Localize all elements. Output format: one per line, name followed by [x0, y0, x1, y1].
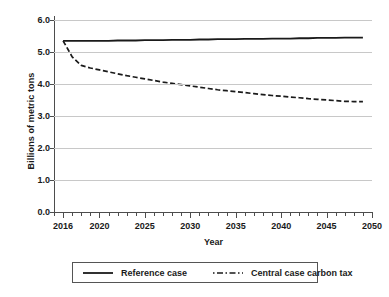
x-tick-minor	[254, 213, 255, 216]
x-tick-major	[99, 213, 100, 218]
x-tick-minor	[299, 213, 300, 216]
x-tick-minor	[317, 213, 318, 216]
x-tick-minor	[263, 213, 264, 216]
y-axis-tick-labels: 0.01.02.03.04.05.06.0	[28, 0, 50, 297]
x-tick-minor	[181, 213, 182, 216]
x-tick-label: 2030	[170, 221, 210, 232]
y-tick-mark	[50, 180, 54, 181]
y-tick-mark	[50, 20, 54, 21]
plot-area	[54, 20, 372, 212]
x-tick-minor	[154, 213, 155, 216]
legend-label-central-case-carbon-tax: Central case carbon tax	[251, 268, 353, 278]
legend-item-reference-case: Reference case	[82, 263, 187, 282]
y-gridline	[54, 180, 372, 181]
y-tick-label: 0.0	[28, 208, 50, 217]
x-tick-major	[236, 213, 237, 218]
x-axis-ticks	[54, 213, 373, 221]
x-tick-minor	[354, 213, 355, 216]
x-tick-minor	[227, 213, 228, 216]
x-tick-major	[63, 213, 64, 218]
legend-swatch-dash-dot-line	[212, 268, 244, 278]
x-tick-minor	[81, 213, 82, 216]
series-line-reference-case	[63, 38, 363, 41]
x-tick-minor	[118, 213, 119, 216]
y-gridline	[54, 20, 372, 21]
x-tick-minor	[208, 213, 209, 216]
series-line-central-case-carbon-tax	[63, 41, 363, 102]
x-tick-minor	[109, 213, 110, 216]
x-tick-minor	[136, 213, 137, 216]
x-tick-major	[327, 213, 328, 218]
y-tick-label: 2.0	[28, 144, 50, 153]
x-tick-minor	[272, 213, 273, 216]
y-tick-label: 5.0	[28, 48, 50, 57]
x-tick-major	[281, 213, 282, 218]
x-tick-label: 2035	[216, 221, 256, 232]
x-tick-minor	[163, 213, 164, 216]
y-gridline	[54, 52, 372, 53]
y-tick-mark	[50, 148, 54, 149]
x-tick-minor	[345, 213, 346, 216]
x-tick-major	[372, 213, 373, 218]
x-tick-minor	[199, 213, 200, 216]
x-tick-minor	[245, 213, 246, 216]
x-tick-minor	[308, 213, 309, 216]
x-tick-minor	[72, 213, 73, 216]
x-tick-minor	[90, 213, 91, 216]
x-tick-label: 2025	[125, 221, 165, 232]
chart-figure: Billions of metric tons 0.01.02.03.04.05…	[0, 0, 389, 297]
chart-legend: Reference case Central case carbon tax	[72, 262, 318, 283]
y-tick-mark	[50, 52, 54, 53]
legend-item-central-case-carbon-tax: Central case carbon tax	[212, 263, 353, 282]
y-gridline	[54, 148, 372, 149]
x-tick-label: 2040	[261, 221, 301, 232]
x-tick-label: 2050	[352, 221, 389, 232]
x-tick-minor	[336, 213, 337, 216]
x-tick-label: 2016	[43, 221, 83, 232]
x-tick-minor	[127, 213, 128, 216]
legend-swatch-solid-line	[82, 268, 114, 278]
x-tick-minor	[172, 213, 173, 216]
legend-label-reference-case: Reference case	[121, 268, 187, 278]
x-tick-label: 2045	[307, 221, 347, 232]
y-gridline	[54, 84, 372, 85]
x-tick-minor	[363, 213, 364, 216]
x-axis-tick-labels: 20162020202520302035204020452050	[0, 221, 389, 235]
x-tick-major	[190, 213, 191, 218]
y-tick-label: 3.0	[28, 112, 50, 121]
y-gridline	[54, 116, 372, 117]
x-tick-label: 2020	[79, 221, 119, 232]
y-tick-label: 6.0	[28, 16, 50, 25]
x-tick-minor	[218, 213, 219, 216]
y-tick-label: 4.0	[28, 80, 50, 89]
x-axis-title: Year	[54, 237, 373, 247]
y-tick-mark	[50, 84, 54, 85]
x-tick-major	[145, 213, 146, 218]
y-tick-label: 1.0	[28, 176, 50, 185]
x-tick-minor	[290, 213, 291, 216]
y-tick-mark	[50, 116, 54, 117]
